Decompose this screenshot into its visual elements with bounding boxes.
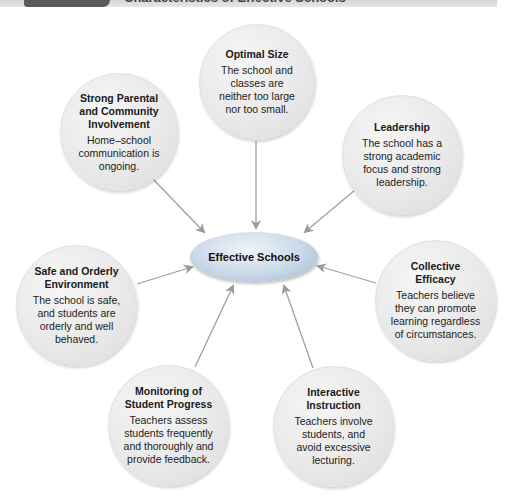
node-body: The school is safe, and students are ord… [31,294,123,346]
arrow-strong-parental [152,178,204,232]
node-monitoring: Monitoring of Student Progress Teachers … [108,365,229,486]
node-body: Home–school communication is ongoing. [77,134,161,173]
node-optimal-size: Optimal Size The school and classes are … [199,24,315,140]
node-title: Optimal Size [225,48,288,61]
node-title: Collective Efficacy [401,260,471,286]
node-title: Safe and Orderly Environment [29,265,125,291]
node-body: Teachers believe they can promote learni… [387,289,485,341]
arrow-interactive-instruction [284,286,313,368]
node-title: Leadership [374,121,430,134]
node-title: Monitoring of Student Progress [119,385,219,411]
node-body: The school and classes are neither too l… [215,64,299,116]
node-safe-orderly: Safe and Orderly Environment The school … [16,245,137,366]
arrow-collective-efficacy [318,266,376,283]
node-leadership: Leadership The school has a strong acade… [342,95,462,215]
node-collective-efficacy: Collective Efficacy Teachers believe the… [375,240,496,361]
node-title: Strong Parental and Community Involvemen… [73,92,165,131]
node-title: Interactive Instruction [294,386,374,412]
node-body: Teachers assess students frequently and … [121,414,217,466]
center-label: Effective Schools [208,251,300,263]
node-strong-parental: Strong Parental and Community Involvemen… [60,73,178,191]
arrow-leadership [305,190,355,232]
arrow-monitoring [195,286,233,367]
node-body: The school has a strong academic focus a… [362,137,442,189]
node-body: Teachers involve students, and avoid exc… [291,415,377,467]
node-interactive-instruction: Interactive Instruction Teachers involve… [273,366,394,487]
arrow-safe-orderly [137,267,192,284]
center-oval: Effective Schools [190,232,318,282]
